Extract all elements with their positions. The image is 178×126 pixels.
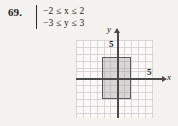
x-axis-tick-label-5: 5 (147, 67, 152, 77)
math-problem-figure: 69. −2 ≤ x ≤ 2 −3 ≤ y ≤ 3 (0, 0, 178, 126)
system-of-inequalities: −2 ≤ x ≤ 2 −3 ≤ y ≤ 3 (36, 5, 85, 29)
coordinate-graph: y x 5 5 (76, 40, 153, 118)
problem-number: 69. (8, 6, 22, 18)
x-axis (76, 78, 164, 80)
y-axis-tick-label-5: 5 (109, 39, 114, 49)
x-axis-label: x (167, 72, 171, 82)
y-axis-arrow-icon (114, 28, 120, 33)
y-axis-label: y (107, 24, 111, 34)
inequality-x: −2 ≤ x ≤ 2 (43, 5, 85, 17)
left-brace-icon (36, 5, 41, 29)
y-axis (117, 31, 119, 118)
inequality-y: −3 ≤ y ≤ 3 (43, 17, 85, 29)
inequality-lines: −2 ≤ x ≤ 2 −3 ≤ y ≤ 3 (43, 5, 85, 29)
